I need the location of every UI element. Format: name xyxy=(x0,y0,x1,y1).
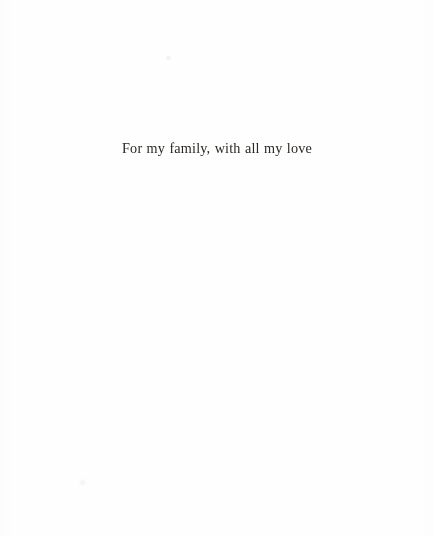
scanned-page: For my family, with all my love xyxy=(0,0,434,536)
dedication-block: For my family, with all my love xyxy=(0,139,434,157)
scan-speck-upper xyxy=(166,56,171,60)
dedication-text: For my family, with all my love xyxy=(122,139,312,157)
scan-speck-lower xyxy=(80,480,85,485)
